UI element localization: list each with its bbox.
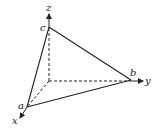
point-c-label: c — [40, 22, 46, 33]
y-label: y — [144, 75, 151, 86]
edge-ab — [27, 80, 131, 107]
point-a-label: a — [18, 100, 24, 111]
point-b-label: b — [130, 67, 136, 78]
x-label: x — [12, 115, 18, 126]
diagram-canvas: z y x c b a — [0, 0, 159, 132]
edge-ca — [27, 27, 49, 107]
z-label: z — [45, 2, 52, 13]
edge-cb — [49, 27, 131, 80]
